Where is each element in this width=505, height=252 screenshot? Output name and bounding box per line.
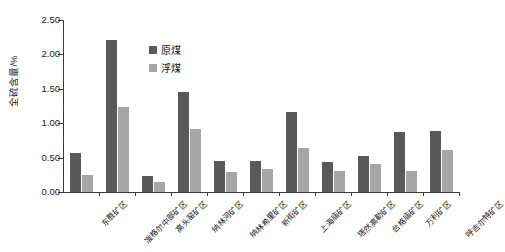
bar-raw-coal: [70, 153, 81, 192]
bar-float-coal: [442, 150, 453, 192]
x-axis-label: 万利矿区: [422, 198, 452, 228]
bar-group: [286, 20, 309, 192]
bar-float-coal: [334, 171, 345, 192]
bar-group: [322, 20, 345, 192]
x-tick-mark: [315, 192, 316, 196]
bar-group: [358, 20, 381, 192]
legend-swatch-raw-icon: [149, 46, 157, 54]
x-tick-mark: [387, 192, 388, 196]
bar-raw-coal: [430, 131, 441, 192]
y-tick-label: 1.50: [28, 83, 60, 94]
bar-float-coal: [154, 182, 165, 192]
x-tick-mark: [171, 192, 172, 196]
x-tick-mark: [351, 192, 352, 196]
bar-raw-coal: [358, 156, 369, 192]
x-tick-mark: [99, 192, 100, 196]
y-axis-title: 全硫含量/%: [6, 36, 20, 126]
bar-group: [106, 20, 129, 192]
bar-float-coal: [298, 148, 309, 192]
bar-group: [250, 20, 273, 192]
x-tick-mark: [135, 192, 136, 196]
bar-raw-coal: [142, 176, 153, 192]
bar-float-coal: [82, 175, 93, 192]
bar-raw-coal: [322, 162, 333, 192]
bar-group: [430, 20, 453, 192]
bar-raw-coal: [394, 132, 405, 192]
legend: 原煤 浮煤: [149, 42, 181, 78]
bar-raw-coal: [214, 161, 225, 192]
bar-group: [70, 20, 93, 192]
x-tick-mark: [459, 192, 460, 196]
y-tick-label: 0.00: [28, 186, 60, 197]
x-tick-mark: [279, 192, 280, 196]
y-tick-label: 0.50: [28, 152, 60, 163]
x-axis-label: 东胜矿区: [98, 198, 128, 228]
legend-item-raw: 原煤: [149, 42, 181, 57]
x-tick-mark: [207, 192, 208, 196]
x-axis-label: 上海庙矿区: [317, 198, 353, 234]
y-axis-line: [63, 20, 64, 192]
legend-label-raw: 原煤: [161, 42, 181, 57]
legend-item-float: 浮煤: [149, 60, 181, 75]
legend-label-float: 浮煤: [161, 60, 181, 75]
bar-raw-coal: [106, 40, 117, 192]
x-axis-line: [63, 192, 459, 193]
bar-raw-coal: [250, 161, 261, 192]
bar-group: [214, 20, 237, 192]
legend-swatch-float-icon: [149, 64, 157, 72]
y-tick-label: 2.00: [28, 48, 60, 59]
bar-float-coal: [190, 129, 201, 192]
x-tick-mark: [243, 192, 244, 196]
bar-float-coal: [370, 164, 381, 192]
y-tick-label: 1.00: [28, 117, 60, 128]
bar-raw-coal: [178, 92, 189, 192]
bar-float-coal: [118, 107, 129, 192]
x-axis-label: 呼吉尔特矿区: [463, 198, 505, 240]
y-tick-label: 2.50: [28, 14, 60, 25]
bar-raw-coal: [286, 112, 297, 192]
x-axis-label: 纳林河矿区: [209, 198, 245, 234]
plot-area: 0.000.501.001.502.002.50 原煤 浮煤: [63, 20, 459, 192]
bar-float-coal: [226, 172, 237, 192]
x-tick-mark: [423, 192, 424, 196]
bar-float-coal: [406, 171, 417, 192]
bar-group: [394, 20, 417, 192]
bar-float-coal: [262, 169, 273, 192]
x-axis-label: 塔然高勒矿区: [355, 198, 397, 240]
